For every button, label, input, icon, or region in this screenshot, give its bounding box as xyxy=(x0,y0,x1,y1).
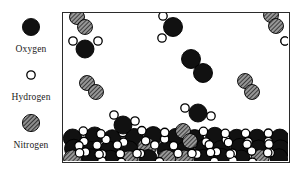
atom-h xyxy=(151,141,159,149)
atom-o xyxy=(76,40,94,58)
atom-h xyxy=(79,127,87,135)
legend-label-hydrogen: Hydrogen xyxy=(0,92,62,103)
open-circle-icon xyxy=(0,64,62,90)
atom-n xyxy=(245,85,260,100)
atom-h xyxy=(226,150,234,158)
atom-h xyxy=(224,138,232,146)
atom-h xyxy=(95,150,103,158)
atom-h xyxy=(159,13,167,20)
atom-h xyxy=(113,141,121,149)
atom-h xyxy=(141,137,149,145)
atom-h xyxy=(206,148,214,156)
molecule-h2o xyxy=(158,13,183,42)
filled-circle-icon xyxy=(0,16,62,42)
atom-h xyxy=(241,129,249,137)
atom-h xyxy=(131,117,139,125)
atom-h xyxy=(174,149,182,157)
atom-h xyxy=(110,111,118,119)
atom-o xyxy=(164,18,183,37)
atom-h xyxy=(264,129,272,137)
atom-h xyxy=(69,37,77,45)
legend-label-nitrogen: Nitrogen xyxy=(0,140,62,151)
molecule-n2 xyxy=(264,13,284,34)
atom-h xyxy=(161,128,169,136)
atom-h xyxy=(133,149,141,157)
legend-item-oxygen: Oxygen xyxy=(0,16,62,55)
hatched-circle-icon xyxy=(0,112,62,138)
molecule-n2 xyxy=(238,74,260,100)
molecule-n2 xyxy=(80,76,104,100)
atom-h xyxy=(116,150,124,158)
atom-h xyxy=(155,157,163,161)
atom-n xyxy=(89,85,104,100)
atom-h xyxy=(281,37,288,45)
atom-h xyxy=(248,158,256,161)
legend: Oxygen Hydrogen xyxy=(0,0,62,173)
atom-h xyxy=(75,149,83,157)
atom-o xyxy=(189,104,207,122)
atom-h xyxy=(264,149,272,157)
molecule-n2 xyxy=(70,13,93,35)
legend-item-nitrogen: Nitrogen xyxy=(0,112,62,151)
atom-h xyxy=(117,158,125,161)
atom-h xyxy=(205,141,213,149)
atom-h xyxy=(97,130,105,138)
atom-h xyxy=(243,140,251,148)
atom-h xyxy=(93,141,101,149)
atom-h xyxy=(94,37,102,45)
gas-layer xyxy=(69,13,288,149)
atom-h xyxy=(265,140,273,148)
molecule-scene xyxy=(63,13,288,161)
atom-h xyxy=(188,149,196,157)
atom-o xyxy=(194,64,213,83)
container-box xyxy=(62,12,290,163)
molecule-o2 xyxy=(182,50,213,83)
atom-h xyxy=(181,104,189,112)
atom-h xyxy=(199,127,207,135)
legend-label-oxygen: Oxygen xyxy=(0,44,62,55)
atom-h xyxy=(207,112,215,120)
molecule-h2o xyxy=(281,37,288,45)
atom-n xyxy=(269,19,284,34)
atom-h xyxy=(210,157,218,161)
legend-item-hydrogen: Hydrogen xyxy=(0,64,62,103)
atom-h xyxy=(221,129,229,137)
molecule-h2o xyxy=(181,104,215,122)
atom-h xyxy=(158,34,166,42)
atom-n xyxy=(183,134,198,149)
molecule-h2o xyxy=(69,37,102,58)
molecular-phase-diagram: Oxygen Hydrogen xyxy=(0,0,298,173)
atom-n xyxy=(78,20,93,35)
atom-h xyxy=(138,126,146,134)
atom-h xyxy=(169,141,177,149)
